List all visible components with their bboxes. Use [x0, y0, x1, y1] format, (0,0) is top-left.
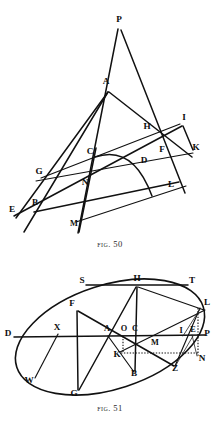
- fig51-label-O: O: [121, 324, 128, 333]
- fig51-label-I: I: [179, 326, 182, 335]
- fig50-label-F: F: [159, 144, 165, 154]
- fig51-diameter-F-to-G: [77, 311, 78, 390]
- figure-50-caption-text: Fig. 50: [97, 239, 122, 249]
- fig50-label-E: E: [9, 204, 15, 214]
- fig51-label-X: X: [54, 322, 61, 332]
- fig50-label-B: B: [32, 197, 38, 207]
- fig50-label-C: C: [87, 146, 94, 156]
- fig51-label-H: H: [133, 273, 140, 283]
- fig51-label-Z: Z: [172, 363, 178, 373]
- fig51-label-D: D: [5, 328, 12, 338]
- fig51-label-A: A: [104, 324, 110, 333]
- fig51-chord-X-to-W: [35, 334, 58, 378]
- figure-50-drawing: P A I H K C F D G N L B E M: [0, 0, 220, 240]
- fig50-label-D: D: [141, 155, 148, 165]
- fig50-transversal-B-to-L: [34, 182, 179, 212]
- fig50-label-K: K: [192, 142, 200, 152]
- fig50-line-P-to-lower-right: [121, 30, 185, 193]
- fig51-chord-H-to-L: [138, 287, 204, 310]
- fig51-segment-Z-to-E: [176, 336, 193, 365]
- figure-51-caption: Fig. 51: [0, 403, 220, 413]
- fig51-label-C: C: [132, 324, 138, 333]
- fig51-label-P: P: [204, 328, 210, 338]
- fig50-label-N: N: [82, 177, 89, 187]
- figure-51-caption-text: Fig. 51: [97, 403, 122, 413]
- fig51-label-G: G: [70, 388, 77, 398]
- fig51-label-B: B: [131, 368, 137, 378]
- fig51-label-E: E: [190, 325, 196, 334]
- figure-50-caption: Fig. 50: [0, 239, 220, 249]
- fig51-label-T: T: [189, 275, 195, 285]
- fig51-label-L: L: [204, 297, 210, 307]
- fig51-label-W: W: [24, 375, 34, 385]
- fig50-label-G: G: [35, 166, 42, 176]
- fig50-label-A: A: [103, 76, 110, 86]
- figure-51-drawing: S H T F L D X A O C I E P M K N B Z W G: [0, 258, 220, 403]
- fig51-label-N: N: [199, 353, 206, 363]
- geometry-plate: P A I H K C F D G N L B E M Fig. 50: [0, 0, 220, 423]
- fig50-label-H: H: [143, 121, 150, 131]
- fig50-label-I: I: [182, 112, 186, 122]
- fig50-label-M: M: [70, 219, 78, 228]
- fig51-label-K: K: [113, 349, 121, 359]
- fig51-segment-L-to-Z: [175, 308, 200, 366]
- fig50-point-labels: P A I H K C F D G N L B E M: [9, 14, 200, 228]
- fig51-label-S: S: [79, 275, 84, 285]
- fig51-label-M: M: [151, 338, 159, 347]
- fig51-chord-F-to-Z: [78, 311, 174, 366]
- fig51-label-F: F: [69, 298, 75, 308]
- fig50-label-P: P: [116, 14, 122, 24]
- fig50-label-L: L: [168, 179, 174, 189]
- fig50-line-work: [14, 29, 193, 233]
- fig50-line-C-to-M: [79, 148, 96, 232]
